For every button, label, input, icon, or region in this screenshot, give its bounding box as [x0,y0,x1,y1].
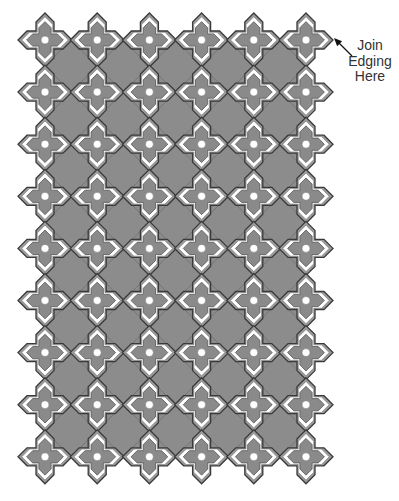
label-line-2: Edging [340,54,399,70]
join-edging-label: Join Edging Here [340,38,399,85]
label-line-3: Here [340,69,399,85]
label-line-1: Join [340,38,399,54]
